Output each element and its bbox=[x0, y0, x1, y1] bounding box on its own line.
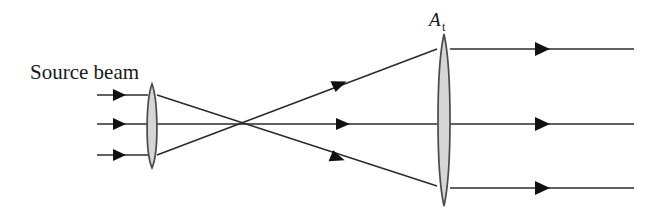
crossing-ray-upper-to-lower-line bbox=[157, 95, 437, 186]
lens-label-letter: A bbox=[427, 9, 441, 30]
source-beam-label: Source beam bbox=[30, 60, 139, 84]
lens-label-subscript: t bbox=[442, 20, 446, 34]
small-collimating-lens bbox=[147, 84, 157, 168]
crossing-ray-axis-arrowhead bbox=[336, 118, 350, 130]
output-ray-middle-arrowhead bbox=[535, 117, 550, 131]
crossing-ray-lower-to-upper-line bbox=[157, 49, 437, 155]
lens-aperture-label: A t bbox=[427, 9, 446, 34]
output-ray-top-arrowhead bbox=[535, 42, 550, 56]
input-ray-middle-arrowhead bbox=[113, 118, 126, 130]
input-ray-bottom-arrowhead bbox=[113, 149, 126, 161]
crossing-ray-group bbox=[157, 49, 437, 186]
input-ray-top-arrowhead bbox=[113, 89, 126, 101]
input-ray-group bbox=[97, 89, 148, 161]
output-ray-bottom-arrowhead bbox=[535, 181, 550, 195]
optical-diagram-canvas: Source beam A t bbox=[0, 0, 664, 216]
beam-expander-figure: Source beam A t bbox=[0, 0, 664, 216]
large-telescope-lens bbox=[438, 34, 450, 206]
output-ray-group bbox=[450, 42, 634, 195]
